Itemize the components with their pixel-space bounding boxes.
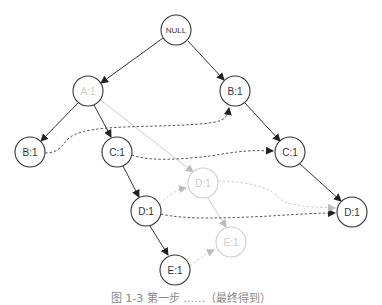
nodes: NULL A:1 B:1 B:1 C:1 C:1 D:1 D:1 xyxy=(15,15,367,285)
link-d1m-d1r xyxy=(161,213,335,218)
node-label: B:1 xyxy=(227,86,242,97)
node-d1-middle: D:1 xyxy=(131,196,161,226)
node-label: C:1 xyxy=(109,147,125,158)
link-e1m-e1g xyxy=(190,250,214,266)
node-label: E:1 xyxy=(167,265,182,276)
node-c1-right: C:1 xyxy=(275,137,305,167)
link-d1m-d1g xyxy=(160,188,186,204)
node-label: A:1 xyxy=(80,86,95,97)
node-label: NULL xyxy=(166,26,187,35)
node-label: D:1 xyxy=(138,206,154,217)
link-d1g-d1r xyxy=(218,181,335,208)
edge-d1m-e1m xyxy=(150,226,168,255)
edge-c1m-d1m xyxy=(123,166,139,197)
node-label: D:1 xyxy=(344,207,360,218)
node-label: C:1 xyxy=(282,147,298,158)
edge-null-a1 xyxy=(101,38,163,83)
node-e1-ghost: E:1 xyxy=(216,227,246,257)
figure-caption: 图 1-3 第一步 ……（最终得到） xyxy=(0,289,382,305)
node-c1-middle: C:1 xyxy=(102,137,132,167)
node-e1-middle: E:1 xyxy=(160,255,190,285)
edge-b1r-c1r xyxy=(245,103,280,141)
edge-c1r-d1r xyxy=(300,164,341,201)
node-label: E:1 xyxy=(223,237,238,248)
edge-d1g-e1g xyxy=(208,198,226,227)
edge-null-b1r xyxy=(188,41,224,80)
node-label: D:1 xyxy=(195,178,211,189)
node-d1-ghost: D:1 xyxy=(188,168,218,198)
node-b1-right: B:1 xyxy=(220,76,250,106)
node-a1: A:1 xyxy=(73,76,103,106)
link-c1m-c1r xyxy=(132,151,273,160)
link-b1l-b1r xyxy=(45,108,229,153)
node-null: NULL xyxy=(161,15,191,45)
node-b1-left: B:1 xyxy=(15,137,45,167)
node-d1-right: D:1 xyxy=(337,197,367,227)
edge-a1-c1m xyxy=(94,105,111,137)
node-label: B:1 xyxy=(22,147,37,158)
